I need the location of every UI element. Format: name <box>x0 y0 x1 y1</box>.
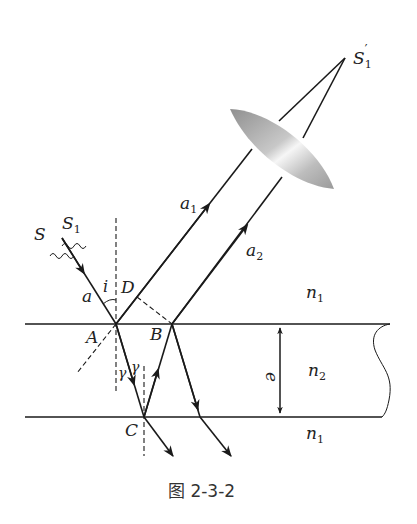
label-A: A <box>84 327 98 347</box>
label-S1: S1 <box>62 213 81 236</box>
labels: S S1 S1′ a1 a2 a i D A B C γ γ e n1 n2 n… <box>34 43 372 501</box>
label-C: C <box>125 420 138 440</box>
label-S1-prime: S1′ <box>353 43 372 71</box>
label-a: a <box>82 286 92 306</box>
transmitted-ray-B <box>200 417 231 456</box>
figure-caption: 图 2-3-2 <box>168 481 235 501</box>
label-n1-top: n1 <box>306 282 324 305</box>
label-a1: a1 <box>180 193 197 216</box>
wavefront-DB <box>137 297 172 324</box>
label-B: B <box>149 324 163 344</box>
angle-i-arc <box>103 300 116 305</box>
label-gamma-2: γ <box>131 359 140 375</box>
transmitted-ray-C <box>144 417 173 456</box>
label-D: D <box>120 277 135 297</box>
label-n2: n2 <box>308 360 326 383</box>
label-gamma-1: γ <box>118 365 127 381</box>
source-wavy-1 <box>50 254 74 259</box>
thin-film-interference-diagram: S S1 S1′ a1 a2 a i D A B C γ γ e n1 n2 n… <box>0 0 417 524</box>
label-n1-bottom: n1 <box>306 423 324 446</box>
label-i: i <box>103 277 108 296</box>
label-e: e <box>262 372 282 382</box>
label-S: S <box>34 224 46 244</box>
label-a2: a2 <box>246 240 263 263</box>
slab-break-edge <box>373 324 390 417</box>
